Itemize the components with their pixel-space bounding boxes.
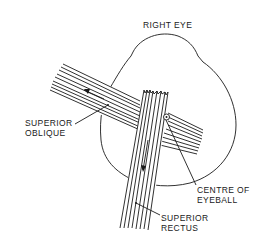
label-superior-rectus-line2: RECTUS bbox=[161, 223, 198, 233]
superior-oblique-muscle bbox=[50, 64, 205, 162]
centre-of-eyeball-marker bbox=[164, 114, 170, 120]
title-right-eye: RIGHT EYE bbox=[143, 20, 192, 30]
label-superior-oblique-line1: SUPERIOR bbox=[25, 118, 73, 128]
label-centre-of-eyeball-line2: EYEBALL bbox=[197, 195, 238, 205]
label-superior-oblique-line2: OBLIQUE bbox=[25, 128, 66, 138]
label-superior-rectus-line1: SUPERIOR bbox=[161, 213, 209, 223]
label-centre-of-eyeball-line1: CENTRE OF bbox=[197, 185, 250, 195]
eye-muscle-diagram: RIGHT EYE bbox=[0, 0, 264, 247]
